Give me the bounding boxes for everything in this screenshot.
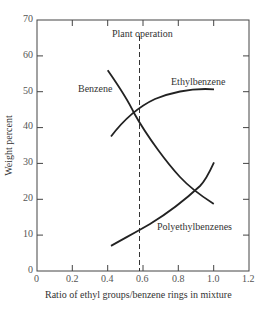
x-ticks-top bbox=[72, 20, 213, 26]
y-tick-30: 30 bbox=[23, 156, 33, 167]
x-tick-0.8: 0.8 bbox=[172, 273, 185, 284]
polyethylbenzenes-label: Polyethylbenzenes bbox=[157, 221, 232, 232]
x-ticks-bottom bbox=[72, 265, 213, 271]
y-tick-70: 70 bbox=[23, 13, 33, 24]
polyethylbenzenes-curve bbox=[111, 162, 214, 246]
y-ticks-left bbox=[37, 56, 43, 235]
x-tick-0.4: 0.4 bbox=[101, 273, 114, 284]
ethylbenzene-curve bbox=[111, 89, 214, 136]
x-tick-0: 0 bbox=[34, 273, 39, 284]
x-tick-0.6: 0.6 bbox=[136, 273, 149, 284]
y-axis-title: Weight percent bbox=[3, 115, 14, 176]
y-tick-40: 40 bbox=[23, 120, 33, 131]
benzene-label: Benzene bbox=[78, 83, 112, 94]
x-tick-0.2: 0.2 bbox=[66, 273, 79, 284]
y-tick-0: 0 bbox=[28, 264, 33, 275]
x-tick-1.2: 1.2 bbox=[242, 273, 255, 284]
y-tick-20: 20 bbox=[23, 192, 33, 203]
x-tick-1.0: 1.0 bbox=[207, 273, 220, 284]
x-axis-title: Ratio of ethyl groups/benzene rings in m… bbox=[45, 289, 232, 300]
benzene-curve bbox=[108, 70, 214, 204]
plant-operation-label: Plant operation bbox=[112, 28, 173, 39]
y-tick-60: 60 bbox=[23, 49, 33, 60]
y-tick-50: 50 bbox=[23, 85, 33, 96]
plot-frame bbox=[37, 20, 249, 271]
y-tick-10: 10 bbox=[23, 228, 33, 239]
chart-canvas bbox=[0, 0, 267, 316]
y-ticks-right bbox=[243, 56, 249, 235]
ethylbenzene-label: Ethylbenzene bbox=[171, 76, 225, 87]
